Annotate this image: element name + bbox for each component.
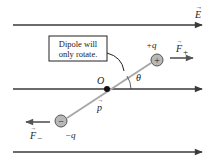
svg-text:−: −: [58, 116, 64, 127]
field-label: E →: [194, 3, 203, 20]
callout-line-2: only rotate.: [59, 49, 98, 59]
force-plus-label: F + →: [175, 38, 188, 57]
svg-text:+: +: [154, 55, 160, 66]
svg-text:→: →: [196, 3, 203, 11]
svg-text:F: F: [175, 43, 183, 54]
svg-text:+: +: [183, 47, 188, 57]
force-minus-label: F − →: [29, 125, 42, 143]
svg-text:→: →: [98, 97, 104, 103]
positive-charge-label: +q: [146, 40, 157, 50]
dipole-moment-label: p →: [96, 97, 104, 113]
positive-charge: +: [151, 54, 163, 66]
svg-text:→: →: [177, 38, 183, 44]
callout-box: Dipole will only rotate.: [49, 36, 107, 61]
callout-leader: [107, 53, 124, 71]
negative-charge-label: −q: [65, 130, 76, 140]
dipole-diagram: E → O θ p → Dipole will only rotate. + +…: [0, 0, 216, 160]
origin-pivot: [104, 86, 110, 92]
angle-label: θ: [136, 72, 141, 83]
svg-text:−: −: [37, 133, 42, 143]
negative-charge: −: [55, 115, 67, 127]
svg-text:F: F: [29, 130, 37, 141]
callout-line-1: Dipole will: [59, 39, 98, 49]
svg-text:p: p: [96, 102, 102, 113]
svg-text:→: →: [31, 125, 37, 131]
origin-label: O: [97, 75, 104, 86]
